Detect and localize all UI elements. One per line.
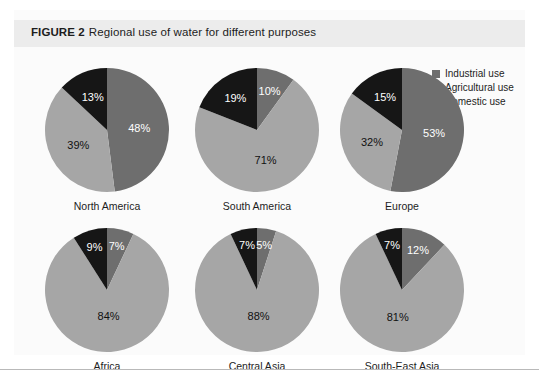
pie-chart-region-label: South America bbox=[182, 200, 332, 212]
pie-chart-region-label: South-East Asia bbox=[327, 360, 477, 372]
pie-chart-south-east-asia: 12%81%7%South-East Asia bbox=[327, 226, 477, 372]
pie-chart-region-label: Central Asia bbox=[182, 360, 332, 372]
pie-chart-region-label: Africa bbox=[32, 360, 182, 372]
pie-chart-region-label: North America bbox=[32, 200, 182, 212]
pie-graphic: 10%71%19% bbox=[193, 66, 321, 194]
pie-chart-africa: 7%84%9%Africa bbox=[32, 226, 182, 372]
pie-graphic: 7%84%9% bbox=[43, 226, 171, 354]
figure-title: FIGURE 2Regional use of water for differ… bbox=[31, 26, 316, 38]
pie-chart-region-label: Europe bbox=[327, 200, 477, 212]
pie-slices bbox=[193, 226, 321, 354]
pie-chart-north-america: 48%39%13%North America bbox=[32, 66, 182, 212]
pie-graphic: 12%81%7% bbox=[338, 226, 466, 354]
pie-graphic: 5%88%7% bbox=[193, 226, 321, 354]
pie-chart-europe: 53%32%15%Europe bbox=[327, 66, 477, 212]
figure-number: FIGURE 2 bbox=[31, 26, 85, 38]
bottom-divider bbox=[0, 369, 539, 370]
pie-chart-central-asia: 5%88%7%Central Asia bbox=[182, 226, 332, 372]
pie-slices bbox=[43, 226, 171, 354]
pie-graphic: 53%32%15% bbox=[338, 66, 466, 194]
pie-slice bbox=[107, 68, 169, 192]
pie-slices bbox=[338, 226, 466, 354]
pie-slices bbox=[193, 66, 321, 194]
pie-slices bbox=[338, 66, 466, 194]
pie-graphic: 48%39%13% bbox=[43, 66, 171, 194]
figure-caption: Regional use of water for different purp… bbox=[89, 26, 316, 38]
pie-slices bbox=[43, 66, 171, 194]
pie-chart-south-america: 10%71%19%South America bbox=[182, 66, 332, 212]
figure-panel: FIGURE 2Regional use of water for differ… bbox=[14, 10, 525, 355]
